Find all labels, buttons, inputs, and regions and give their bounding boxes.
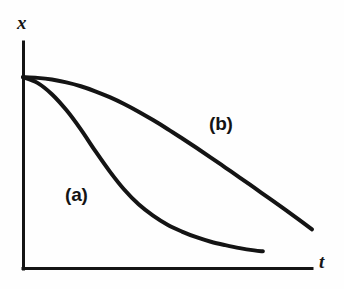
- series-group: [23, 77, 312, 251]
- chart-plot-area: [0, 0, 344, 289]
- curve-label-b: (b): [209, 114, 233, 133]
- curve-b-path: [23, 77, 312, 229]
- figure-canvas: x t (a) (b): [0, 0, 344, 289]
- axes-group: [23, 42, 312, 269]
- curve-a-path: [23, 77, 263, 251]
- curve-label-a: (a): [65, 185, 88, 204]
- y-axis-label: x: [17, 13, 27, 32]
- x-axis-label: t: [319, 252, 324, 271]
